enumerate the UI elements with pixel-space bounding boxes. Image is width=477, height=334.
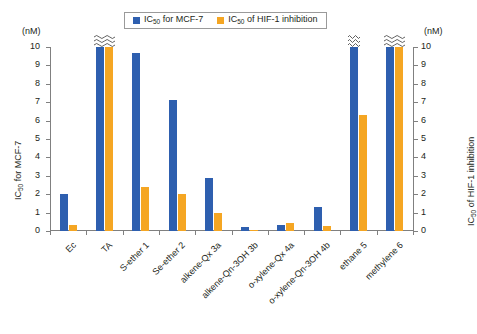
bar-hif1 (286, 223, 294, 231)
axis-break-mark (94, 34, 115, 48)
legend-entry-mcf7: IC50 for MCF-7 (133, 15, 203, 26)
left-axis-tick-label: 10 (10, 42, 40, 51)
right-axis-tick (414, 157, 418, 158)
bar-mcf7 (386, 47, 394, 231)
x-axis-tick (86, 231, 87, 235)
left-axis-tick-label: 6 (10, 116, 40, 125)
right-axis-tick (414, 176, 418, 177)
left-axis-tick-label: 4 (10, 152, 40, 161)
bar-hif1 (141, 187, 149, 231)
x-axis-category-label-text: TA (100, 240, 115, 255)
x-axis-category-label: Ec (71, 233, 86, 248)
right-axis-tick (414, 213, 418, 214)
legend-swatch-mcf7 (133, 17, 140, 24)
legend-label-mcf7: IC50 for MCF-7 (144, 15, 203, 26)
right-axis-unit-caption: (nM) (424, 26, 443, 36)
bars-layer (50, 47, 413, 231)
left-axis-tick-label: 0 (10, 226, 40, 235)
right-axis-tick-label: 10 (421, 42, 451, 51)
right-axis-tick-label: 6 (421, 116, 451, 125)
axis-break-mark (348, 34, 360, 48)
bar-hif1 (323, 226, 331, 231)
x-axis-category-label: TA (107, 232, 122, 247)
bar-mcf7 (132, 53, 140, 231)
right-axis-tick-label: 5 (421, 134, 451, 143)
right-axis-tick (414, 139, 418, 140)
right-axis-tick (414, 84, 418, 85)
left-axis-tick-label: 5 (10, 134, 40, 143)
x-axis-category-label-text: ethane 5 (337, 240, 369, 272)
bar-mcf7 (169, 100, 177, 231)
bar-hif1 (105, 47, 113, 231)
x-axis-category-label-text: Se-ether 2 (150, 240, 187, 277)
x-axis-tick (50, 231, 51, 235)
right-axis-title: IC50 of HIF-1 inhibition (466, 137, 477, 226)
right-axis-tick (414, 194, 418, 195)
right-axis-tick (414, 47, 418, 48)
bar-hif1 (69, 225, 77, 231)
left-axis-tick-label: 2 (10, 189, 40, 198)
bar-hif1 (178, 194, 186, 231)
right-axis-tick-label: 4 (421, 152, 451, 161)
right-axis-tick-label: 0 (421, 226, 451, 235)
right-axis-tick (414, 65, 418, 66)
axis-break-mark (384, 34, 405, 48)
right-axis-tick (414, 102, 418, 103)
bar-mcf7 (350, 47, 358, 231)
x-axis-category-label-text: Ec (64, 240, 79, 255)
left-axis-tick-label: 1 (10, 208, 40, 217)
left-axis-unit-caption: (nM) (22, 26, 41, 36)
right-axis-tick-label: 8 (421, 79, 451, 88)
left-axis-tick-label: 9 (10, 60, 40, 69)
bar-hif1 (395, 47, 403, 231)
legend-label-hif1: IC50 of HIF-1 inhibition (228, 15, 317, 26)
bar-mcf7 (96, 47, 104, 231)
left-axis-tick-label: 8 (10, 79, 40, 88)
bar-mcf7 (60, 194, 68, 231)
x-axis-tick (123, 231, 124, 235)
left-axis-tick-label: 7 (10, 97, 40, 106)
right-axis-tick-label: 2 (421, 189, 451, 198)
right-axis-tick (414, 121, 418, 122)
x-axis-category-label-text: o-xylene-Qn-3OH 4b (267, 240, 333, 306)
legend-entry-hif1: IC50 of HIF-1 inhibition (217, 15, 317, 26)
legend-swatch-hif1 (217, 17, 224, 24)
bar-mcf7 (241, 227, 249, 231)
x-axis-category-label-text: S-ether 1 (118, 240, 151, 273)
left-axis-tick-label: 3 (10, 171, 40, 180)
right-axis-tick-label: 3 (421, 171, 451, 180)
chart-legend: IC50 for MCF-7 IC50 of HIF-1 inhibition (124, 12, 327, 29)
bar-hif1 (250, 230, 258, 231)
right-axis-tick-label: 7 (421, 97, 451, 106)
right-axis-tick-label: 9 (421, 60, 451, 69)
